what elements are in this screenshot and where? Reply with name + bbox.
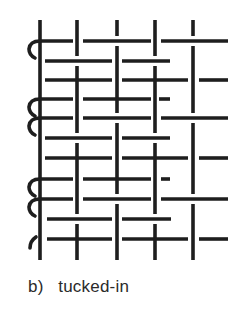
warp-threads (40, 20, 193, 260)
figure-caption: b) tucked-in (28, 277, 129, 297)
tucked-in-weave-diagram (0, 0, 252, 313)
weft-threads (40, 41, 228, 239)
tucked-end-curl (30, 237, 36, 248)
